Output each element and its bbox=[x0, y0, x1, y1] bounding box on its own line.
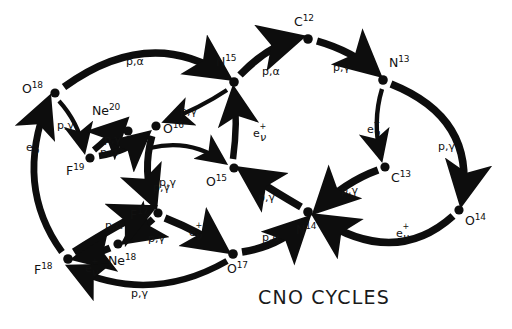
nuclide-element: O bbox=[465, 213, 475, 228]
beta-decay-glyph: e+ν bbox=[253, 126, 269, 139]
node-dot-Ne18 bbox=[113, 239, 122, 248]
node-dot-N13 bbox=[378, 75, 388, 85]
reaction-label-f17-ne18: p,γ bbox=[148, 233, 165, 244]
reaction-label-n15-o16: p,γ bbox=[180, 106, 197, 117]
nuclide-mass-number: 13 bbox=[400, 169, 411, 179]
node-dot-O15 bbox=[229, 163, 238, 172]
arrow-group bbox=[34, 38, 464, 285]
arrow-o18-n15 bbox=[64, 53, 226, 87]
reaction-label-o14-n14: e+ν bbox=[396, 226, 412, 241]
reaction-label-o16-f17: p,γ bbox=[159, 177, 176, 188]
node-dot-N14 bbox=[303, 207, 313, 217]
nuclide-element: O bbox=[163, 121, 173, 136]
arrow-o16-o15 bbox=[150, 145, 224, 162]
nuclide-mass-number: 17 bbox=[237, 260, 248, 270]
beta-decay-glyph: e+ν bbox=[189, 225, 205, 238]
nuclide-label-o17: O17 bbox=[227, 261, 248, 276]
positron-plus-sign: + bbox=[260, 123, 267, 131]
nuclide-label-n14: N14 bbox=[296, 222, 316, 237]
reaction-label-n15-c12: p,α bbox=[262, 66, 280, 77]
nuclide-label-c12: C12 bbox=[294, 14, 314, 29]
beta-decay-glyph: e+ν bbox=[26, 140, 42, 153]
node-dot-C12 bbox=[303, 34, 313, 44]
positron-plus-sign: + bbox=[196, 222, 203, 230]
reaction-label-f17-o17: e+ν bbox=[189, 225, 205, 240]
nuclide-element: N bbox=[216, 54, 225, 69]
nuclide-mass-number: 18 bbox=[125, 252, 136, 262]
nuclide-label-o14: O14 bbox=[465, 213, 486, 228]
nuclide-element: C bbox=[294, 14, 303, 29]
nuclide-element: C bbox=[391, 170, 400, 185]
node-dot-Ne20 bbox=[123, 126, 132, 135]
positron-plus-sign: + bbox=[33, 137, 40, 145]
reaction-label-o17-n14: p,α bbox=[262, 232, 280, 243]
reaction-label-o18-n15: p,α bbox=[126, 56, 144, 67]
reaction-label-c13-n14: p,γ bbox=[341, 185, 358, 196]
page-title: CNO CYCLES bbox=[258, 286, 390, 308]
nuclide-label-ne20: Ne20 bbox=[92, 103, 120, 118]
nuclide-label-f17: F17 bbox=[130, 207, 148, 222]
nuclide-element: Ne bbox=[108, 253, 125, 268]
nuclide-label-f18: F18 bbox=[34, 262, 52, 277]
neutrino-symbol: ν bbox=[196, 231, 202, 242]
node-dot-N15 bbox=[229, 77, 239, 87]
cno-cycles-diagram: O18Ne20F19O16N15C12N13O15C13O14N14F17Ne1… bbox=[0, 0, 512, 329]
nuclide-mass-number: 14 bbox=[305, 221, 316, 231]
node-dot-O14 bbox=[454, 205, 463, 214]
reaction-label-o18-f19: p,γ bbox=[57, 120, 74, 131]
reaction-label-c12-n13: p,γ bbox=[333, 62, 350, 73]
arrow-o14-n14 bbox=[318, 216, 453, 243]
nuclide-element: N bbox=[389, 55, 398, 70]
positron-plus-sign: + bbox=[403, 223, 410, 231]
nuclide-element: O bbox=[206, 174, 216, 189]
reaction-label-o17-f18: p,γ bbox=[131, 288, 148, 299]
node-dot-O16 bbox=[151, 121, 160, 130]
arrow-o15-n15 bbox=[233, 92, 236, 159]
nuclide-label-n13: N13 bbox=[389, 55, 409, 70]
nuclide-mass-number: 17 bbox=[137, 206, 148, 216]
nuclide-mass-number: 13 bbox=[398, 54, 409, 64]
node-dot-F18 bbox=[63, 254, 73, 264]
reaction-label-f19-o16: p,α bbox=[100, 147, 118, 158]
node-dot-O17 bbox=[228, 249, 238, 259]
nuclide-mass-number: 16 bbox=[173, 120, 184, 130]
nuclide-label-o18: O18 bbox=[22, 81, 43, 96]
node-dot-C13 bbox=[380, 162, 389, 171]
reaction-label-n13-o14: p,γ bbox=[438, 141, 455, 152]
reaction-label-ne18-f18: e+ν bbox=[85, 261, 101, 276]
reaction-label-f18-o18: e+ν bbox=[26, 140, 42, 155]
nuclide-label-n15: N15 bbox=[216, 54, 236, 69]
nuclide-mass-number: 18 bbox=[41, 261, 52, 271]
nuclide-label-o15: O15 bbox=[206, 174, 227, 189]
beta-decay-glyph: e+ν bbox=[367, 122, 383, 135]
reaction-label-o15-n15: e+ν bbox=[253, 126, 269, 141]
nuclide-mass-number: 20 bbox=[109, 102, 120, 112]
neutrino-symbol: ν bbox=[260, 132, 266, 143]
nuclide-mass-number: 15 bbox=[225, 53, 236, 63]
nuclide-element: Ne bbox=[92, 103, 109, 118]
reaction-label-f18-f17: p,α bbox=[105, 220, 123, 231]
node-dot-O18 bbox=[50, 88, 59, 97]
positron-plus-sign: + bbox=[92, 258, 99, 266]
beta-decay-glyph: e+ν bbox=[396, 226, 412, 239]
nuclide-element: O bbox=[227, 261, 237, 276]
nuclide-mass-number: 14 bbox=[475, 212, 486, 222]
node-dot-F19 bbox=[85, 153, 94, 162]
nuclide-mass-number: 15 bbox=[216, 173, 227, 183]
nuclide-mass-number: 19 bbox=[73, 162, 84, 172]
reaction-label-n13-c13: e+ν bbox=[367, 122, 383, 137]
nuclide-label-ne18: Ne18 bbox=[108, 253, 136, 268]
neutrino-symbol: ν bbox=[92, 267, 98, 278]
nuclide-label-o16: O16 bbox=[163, 121, 184, 136]
nuclide-label-c13: C13 bbox=[391, 170, 411, 185]
nuclide-mass-number: 18 bbox=[32, 80, 43, 90]
neutrino-symbol: ν bbox=[403, 232, 409, 243]
nuclide-element: O bbox=[22, 81, 32, 96]
node-dot-F17 bbox=[153, 208, 162, 217]
nuclide-element: N bbox=[296, 222, 305, 237]
reaction-label-n14-o15: p,γ bbox=[258, 192, 275, 203]
positron-plus-sign: + bbox=[374, 119, 381, 127]
beta-decay-glyph: e+ν bbox=[85, 261, 101, 274]
reaction-label-f19-ne20: p,γ bbox=[104, 134, 121, 145]
neutrino-symbol: ν bbox=[374, 128, 380, 139]
